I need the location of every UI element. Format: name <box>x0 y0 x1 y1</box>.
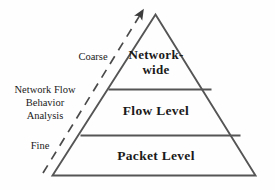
axis-label-analysis: Network Flow Behavior Analysis <box>2 83 88 122</box>
axis-label-fine: Fine <box>26 140 54 152</box>
tier-label-packet-level: Packet Level <box>82 148 230 163</box>
pyramid-diagram: Network- wide Flow Level Packet Level Co… <box>0 0 275 190</box>
tier-label-network-wide: Network- wide <box>112 48 200 78</box>
tier-label-flow-level: Flow Level <box>95 103 217 118</box>
axis-label-coarse: Coarse <box>74 51 112 63</box>
